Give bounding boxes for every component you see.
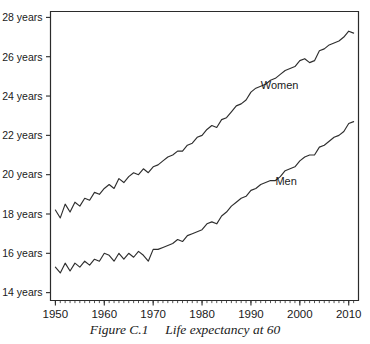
series-line-men: [55, 122, 353, 273]
x-tick-label: 1970: [140, 308, 166, 320]
x-tick-label: 2010: [336, 308, 362, 320]
y-tick-label: 14 years: [2, 286, 42, 298]
series-label-women: Women: [261, 79, 299, 91]
x-tick-label: 2000: [287, 308, 313, 320]
series-line-women: [55, 31, 353, 218]
y-tick-label: 22 years: [2, 129, 42, 141]
y-axis-tick-label-group: 14 years16 years18 years20 years22 years…: [2, 11, 42, 298]
y-tick-label: 24 years: [2, 90, 42, 102]
figure-container: 14 years16 years18 years20 years22 years…: [0, 0, 370, 344]
y-tick-label: 26 years: [2, 51, 42, 63]
x-tick-label: 1990: [238, 308, 264, 320]
life-expectancy-line-chart: 14 years16 years18 years20 years22 years…: [0, 0, 370, 320]
y-tick-label: 16 years: [2, 247, 42, 259]
y-axis-tick-mark-group: [46, 17, 51, 292]
y-tick-label: 18 years: [2, 208, 42, 220]
plot-frame-border: [51, 12, 359, 301]
x-tick-label: 1960: [91, 308, 117, 320]
x-axis-tick-label-group: 1950196019701980199020002010: [43, 308, 362, 320]
series-label-men: Men: [275, 175, 296, 187]
x-tick-label: 1950: [43, 308, 69, 320]
x-tick-label: 1980: [189, 308, 215, 320]
figure-caption: Figure C.1 Life expectancy at 60: [0, 322, 370, 338]
y-tick-label: 20 years: [2, 168, 42, 180]
y-tick-label: 28 years: [2, 11, 42, 23]
